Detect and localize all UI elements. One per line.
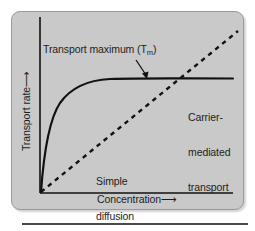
annotation-transport-maximum: Transport maximum (Tm) xyxy=(43,44,156,56)
bottom-separator-rule xyxy=(22,223,248,225)
figure-container: Transport maximum (Tm) Carrier- mediated… xyxy=(0,0,255,231)
annotation-carrier-mediated-transport: Carrier- mediated transport xyxy=(188,88,230,217)
x-axis-label: Concentration⟶ xyxy=(97,194,177,206)
annotation-transport-maximum-subscript: m xyxy=(147,48,153,57)
annotation-simple-diffusion: Simple diffusion xyxy=(96,152,134,231)
carrier-line-1: Carrier- xyxy=(188,112,230,124)
annotation-transport-maximum-paren: ) xyxy=(153,43,156,55)
simple-line-2: diffusion xyxy=(96,211,134,223)
x-axis-arrow-icon: ⟶ xyxy=(161,193,177,206)
y-axis-label: Transport rate⟶ xyxy=(21,63,33,159)
y-axis-arrow-icon: ⟶ xyxy=(20,71,33,87)
carrier-line-3: transport xyxy=(188,182,230,194)
carrier-line-2: mediated xyxy=(188,147,230,159)
x-axis-label-text: Concentration xyxy=(97,193,161,205)
simple-line-1: Simple xyxy=(96,176,134,188)
annotation-transport-maximum-text: Transport maximum (T xyxy=(43,43,147,55)
y-axis-label-text: Transport rate xyxy=(20,87,32,151)
